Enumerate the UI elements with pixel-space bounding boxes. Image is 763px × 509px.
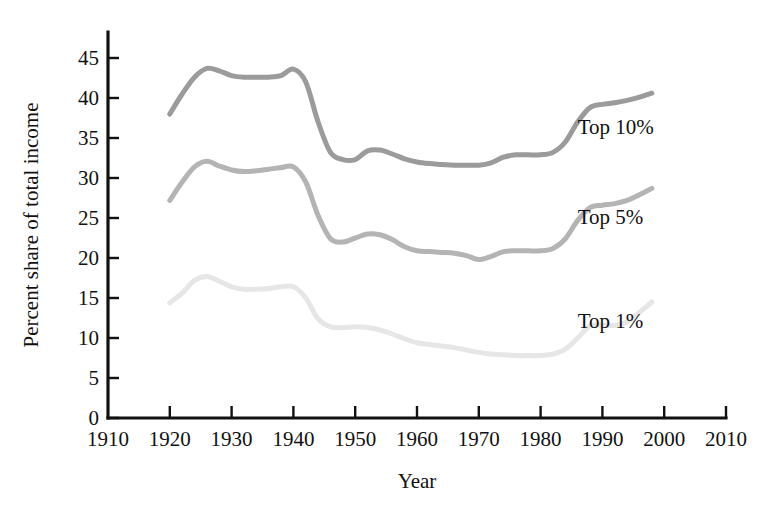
series-label-2: Top 1% [578,309,644,333]
x-tick-label: 1960 [396,427,438,451]
x-tick-label: 2010 [705,427,747,451]
x-tick-label: 1970 [458,427,500,451]
chart-container: 051015202530354045 191019201930194019501… [0,0,763,509]
series-label-0: Top 10% [578,115,654,139]
x-tick-label: 1910 [87,427,129,451]
y-tick-label: 30 [78,166,99,190]
x-axis-title: Year [398,469,437,493]
y-tick-label: 35 [78,126,99,150]
y-tick-label: 10 [78,326,99,350]
y-axis-title: Percent share of total income [19,103,43,348]
y-tick-label: 45 [78,46,99,70]
series-labels: Top 10%Top 5%Top 1% [578,115,654,333]
x-tick-label: 1990 [581,427,623,451]
y-tick-label: 5 [89,366,100,390]
x-tick-label: 1950 [334,427,376,451]
x-tick-label: 1930 [211,427,253,451]
y-tick-label: 20 [78,246,99,270]
y-tick-label: 25 [78,206,99,230]
x-tick-label: 1920 [149,427,191,451]
series-label-1: Top 5% [578,205,644,229]
y-tick-label: 40 [78,86,99,110]
y-tick-label: 15 [78,286,99,310]
x-tick-label: 2000 [643,427,685,451]
y-axis-ticks: 051015202530354045 [78,46,119,430]
x-tick-label: 1980 [520,427,562,451]
line-chart: 051015202530354045 191019201930194019501… [0,0,763,509]
x-axis-ticks: 1910192019301940195019601970198019902000… [87,406,747,451]
x-tick-label: 1940 [272,427,314,451]
